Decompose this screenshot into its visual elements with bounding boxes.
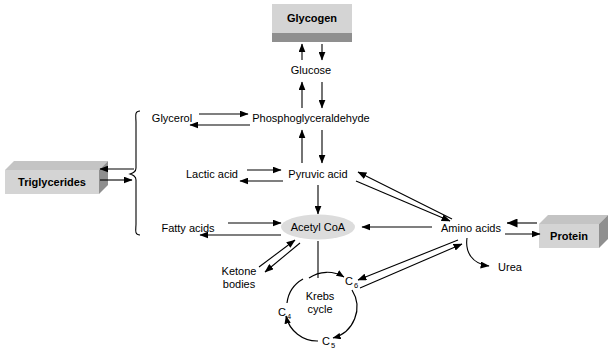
cycle-arc-c4-to-top [287, 279, 303, 303]
node-urea-label: Urea [498, 261, 523, 273]
node-glycogen-label: Glycogen [287, 12, 337, 24]
node-glycerol-label: Glycerol [152, 112, 192, 124]
node-glucose-label: Glucose [291, 64, 331, 76]
node-c4-base: C [278, 306, 286, 318]
triglycerides-box-top [5, 161, 108, 170]
node-ketone-bodies-line1: Ketone [222, 265, 257, 277]
cycle-arc-entry-to-c6 [309, 272, 344, 278]
node-triglycerides-label: Triglycerides [18, 176, 86, 188]
node-krebs-cycle-line1: Krebs [306, 290, 335, 302]
node-amino-acids-label: Amino acids [441, 222, 501, 234]
glycogen-box-shadow [272, 33, 352, 42]
node-c4-subscript: 4 [287, 312, 291, 321]
edge-pyruvic-to-aminoacids [356, 181, 450, 221]
node-c6: C 6 [345, 275, 358, 290]
node-phosphoglyceraldehyde-label: Phosphoglyceraldehyde [252, 112, 369, 124]
node-acetyl-coa[interactable]: Acetyl CoA [281, 215, 355, 240]
node-c5-subscript: 5 [331, 341, 335, 350]
node-c5-base: C [322, 335, 330, 347]
lipid-group-brace [130, 111, 140, 235]
node-c4: C 4 [278, 306, 291, 321]
edge-acetylcoa-to-ketonebodies [265, 243, 300, 272]
protein-box-top [539, 215, 608, 224]
edge-ketonebodies-to-acetylcoa [259, 240, 295, 267]
edge-aminoacids-to-urea [467, 238, 489, 266]
edge-aminoacids-to-c6 [358, 240, 458, 280]
edge-c6-to-aminoacids [360, 244, 462, 288]
node-glycogen[interactable]: Glycogen [272, 4, 352, 42]
node-c6-base: C [345, 275, 353, 287]
edge-aminoacids-to-pyruvic [358, 172, 452, 219]
cycle-arc-c6-to-c5 [333, 290, 357, 338]
metabolic-pathway-diagram: Glycogen Glucose Glycerol Phosphoglycera… [0, 0, 612, 353]
node-krebs-cycle-line2: cycle [307, 303, 332, 315]
node-fatty-acids-label: Fatty acids [161, 222, 215, 234]
node-lactic-acid-label: Lactic acid [186, 168, 238, 180]
diagram-canvas: Glycogen Glucose Glycerol Phosphoglycera… [0, 0, 612, 353]
node-acetyl-coa-label: Acetyl CoA [291, 221, 346, 233]
node-protein[interactable]: Protein [539, 215, 608, 248]
node-c5: C 5 [322, 335, 335, 350]
node-ketone-bodies-line2: bodies [223, 278, 256, 290]
node-triglycerides[interactable]: Triglycerides [5, 161, 108, 194]
node-protein-label: Protein [550, 230, 588, 242]
node-c6-subscript: 6 [354, 281, 358, 290]
node-pyruvic-acid-label: Pyruvic acid [288, 168, 347, 180]
